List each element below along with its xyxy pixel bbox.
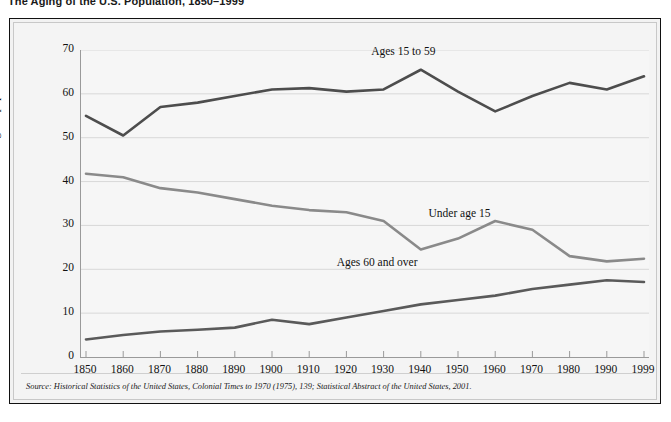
series-annotation: Ages 15 to 59 [371,45,435,57]
series-line [86,280,644,339]
chart-plot-svg [81,50,649,357]
y-tick-label: 70 [63,42,75,54]
x-axis-tick-marks [86,351,644,357]
figure-inner-border: Percentage of population 010203040506070… [13,22,657,400]
y-tick-label: 60 [63,86,75,98]
y-tick-label: 10 [63,305,75,317]
y-axis-tick-labels: 010203040506070 [40,50,74,357]
series-line [86,70,644,136]
y-tick-label: 20 [63,261,75,273]
y-tick-label: 50 [63,130,75,142]
figure-title: The Aging of the U.S. Population, 1850–1… [8,0,244,7]
source-divider [21,373,649,374]
series-annotation: Ages 60 and over [337,256,418,268]
figure-frame: Percentage of population 010203040506070… [9,18,661,404]
series-line [86,174,644,262]
y-tick-label: 30 [63,217,75,229]
series-annotation: Under age 15 [429,207,491,219]
x-axis-tick-labels: 1850186018701880189019001910192019301940… [80,363,648,379]
y-tick-label: 0 [68,349,74,361]
y-tick-label: 40 [63,174,75,186]
source-note: Source: Historical Statistics of the Uni… [26,382,471,391]
plot-area [80,50,649,358]
series-lines [86,70,644,340]
